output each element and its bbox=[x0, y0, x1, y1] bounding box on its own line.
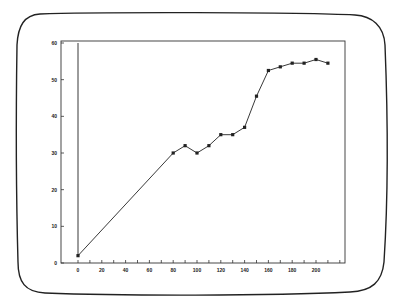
data-point-marker bbox=[184, 144, 187, 147]
data-point-marker bbox=[243, 126, 246, 129]
data-point-marker bbox=[314, 58, 317, 61]
data-point-marker bbox=[303, 62, 306, 65]
x-tick-label: 200 bbox=[312, 267, 321, 273]
x-tick-label: 140 bbox=[240, 267, 249, 273]
x-tick-label: 60 bbox=[147, 267, 153, 273]
y-tick-label: 20 bbox=[51, 187, 57, 193]
x-axis: 020406080100120140160180200 bbox=[77, 260, 340, 273]
series-line bbox=[78, 43, 328, 256]
data-series bbox=[76, 43, 329, 257]
y-tick-label: 10 bbox=[51, 223, 57, 229]
line-chart: 0102030405060 02040608010012014016018020… bbox=[0, 0, 397, 306]
data-point-marker bbox=[291, 62, 294, 65]
y-tick-label: 30 bbox=[51, 150, 57, 156]
x-tick-label: 120 bbox=[217, 267, 226, 273]
data-point-marker bbox=[279, 65, 282, 68]
y-tick-label: 50 bbox=[51, 77, 57, 83]
data-point-marker bbox=[219, 133, 222, 136]
y-axis: 0102030405060 bbox=[51, 40, 64, 266]
x-tick-label: 80 bbox=[170, 267, 176, 273]
data-point-marker bbox=[231, 133, 234, 136]
x-tick-label: 100 bbox=[193, 267, 202, 273]
x-tick-label: 160 bbox=[264, 267, 273, 273]
x-tick-label: 40 bbox=[123, 267, 129, 273]
x-tick-label: 20 bbox=[99, 267, 105, 273]
plot-area-border bbox=[61, 41, 345, 263]
data-point-marker bbox=[172, 151, 175, 154]
data-point-marker bbox=[267, 69, 270, 72]
y-tick-label: 40 bbox=[51, 113, 57, 119]
data-point-marker bbox=[195, 151, 198, 154]
y-tick-label: 60 bbox=[51, 40, 57, 46]
data-point-marker bbox=[76, 254, 79, 257]
data-point-marker bbox=[207, 144, 210, 147]
x-tick-label: 0 bbox=[77, 267, 80, 273]
data-point-marker bbox=[326, 62, 329, 65]
data-point-marker bbox=[255, 95, 258, 98]
x-tick-label: 180 bbox=[288, 267, 297, 273]
y-tick-label: 0 bbox=[54, 260, 57, 266]
